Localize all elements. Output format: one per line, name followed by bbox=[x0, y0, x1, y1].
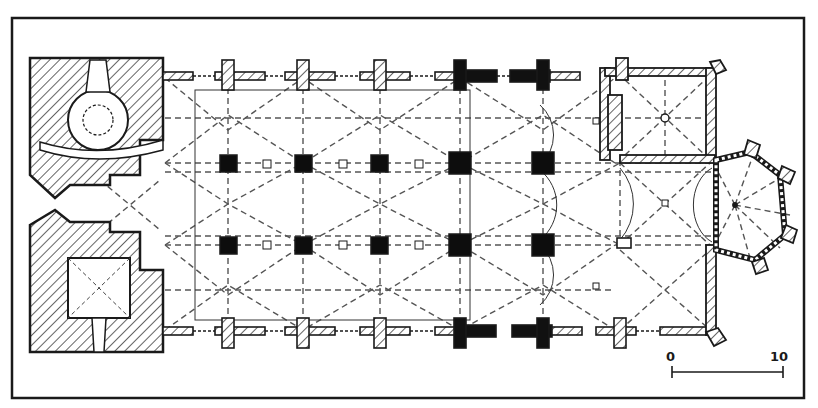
pier bbox=[449, 234, 471, 256]
west-tower-block bbox=[30, 58, 163, 352]
pier bbox=[532, 234, 554, 256]
pier bbox=[220, 155, 237, 172]
pier bbox=[220, 237, 237, 254]
scale-bar-end-label: 10 bbox=[770, 349, 788, 364]
pier bbox=[371, 155, 388, 172]
pier bbox=[371, 237, 388, 254]
scale-bar-start-label: 0 bbox=[666, 349, 675, 364]
spiral-stair bbox=[68, 90, 128, 150]
vault-lines bbox=[100, 78, 790, 330]
scale-bar bbox=[672, 366, 783, 378]
nave-walls bbox=[163, 60, 708, 348]
floor-plan-drawing bbox=[0, 0, 818, 408]
pier bbox=[295, 237, 312, 254]
pier bbox=[449, 152, 471, 174]
pier bbox=[532, 152, 554, 174]
inner-lines bbox=[195, 90, 712, 320]
apse bbox=[716, 140, 797, 274]
pier bbox=[295, 155, 312, 172]
